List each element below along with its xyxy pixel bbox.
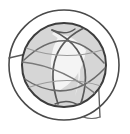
globe-orbit-emblem — [0, 0, 130, 134]
emblem-canvas — [0, 0, 130, 134]
